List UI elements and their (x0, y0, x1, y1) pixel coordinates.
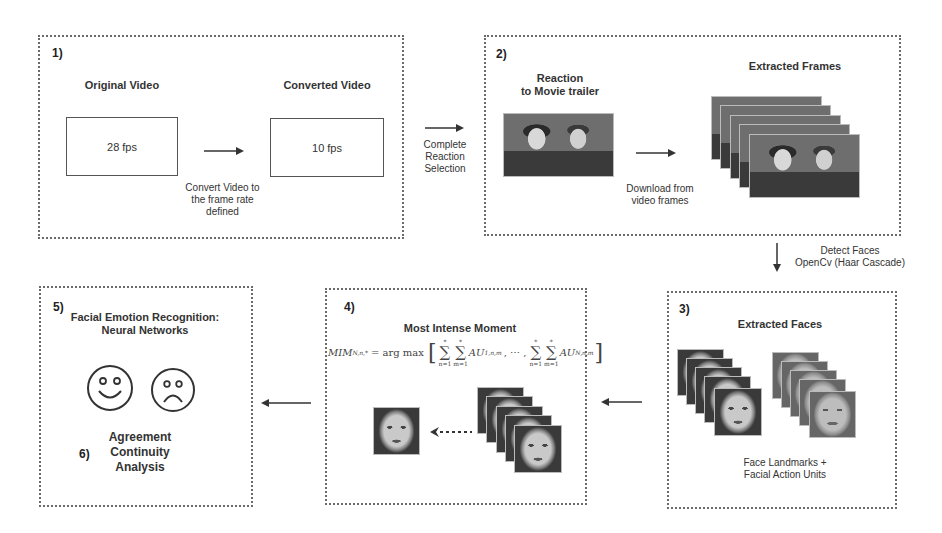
converted-video-box: 10 fps (270, 118, 384, 177)
agreement-continuity-label: Agreement Continuity Analysis (100, 430, 180, 475)
extracted-faces-label: Extracted Faces (720, 318, 840, 331)
most-intense-face (373, 407, 420, 455)
frame-thumbnail (749, 134, 860, 198)
mim-formula: MIMN,n,* = arg max [ *∑n=1 *∑m=1 AU1,n,m… (328, 338, 604, 367)
complete-reaction-selection-caption: Complete Reaction Selection (412, 139, 478, 175)
detect-faces-caption: Detect Faces OpenCv (Haar Cascade) (788, 245, 912, 269)
face-thumbnail (714, 388, 762, 436)
most-intense-moment-label: Most Intense Moment (390, 322, 530, 335)
arrow-left-icon (261, 398, 311, 408)
reaction-video-thumbnail (503, 113, 614, 177)
arrow-down-icon (772, 243, 782, 273)
dotted-arrow-left-icon (430, 427, 472, 437)
landmarks-caption: Face Landmarks + Facial Action Units (720, 457, 850, 481)
step6-number: 6) (79, 447, 90, 461)
original-video-label: Original Video (66, 79, 178, 92)
original-fps: 28 fps (107, 141, 137, 153)
download-arrow-icon (636, 148, 676, 158)
step5-number: 5) (53, 300, 64, 314)
convert-arrow-icon (204, 146, 244, 156)
arrow-right-icon (425, 123, 465, 133)
step1-number: 1) (52, 46, 63, 60)
step3-number: 3) (679, 302, 690, 316)
step2-number: 2) (496, 47, 507, 61)
converted-video-label: Converted Video (270, 79, 384, 92)
sad-face-icon (150, 367, 196, 413)
convert-caption: Convert Video to the frame rate defined (180, 182, 265, 218)
reaction-label: Reaction to Movie trailer (510, 72, 610, 98)
step4-number: 4) (344, 300, 355, 314)
fer-label: Facial Emotion Recognition: Neural Netwo… (65, 311, 225, 337)
happy-face-icon (86, 364, 134, 412)
face-thumbnail (514, 425, 562, 473)
download-caption: Download from video frames (620, 183, 700, 207)
face-thumbnail (809, 391, 856, 438)
arrow-left-icon (601, 397, 643, 407)
original-video-box: 28 fps (66, 117, 178, 176)
extracted-frames-label: Extracted Frames (735, 60, 855, 73)
converted-fps: 10 fps (312, 142, 342, 154)
